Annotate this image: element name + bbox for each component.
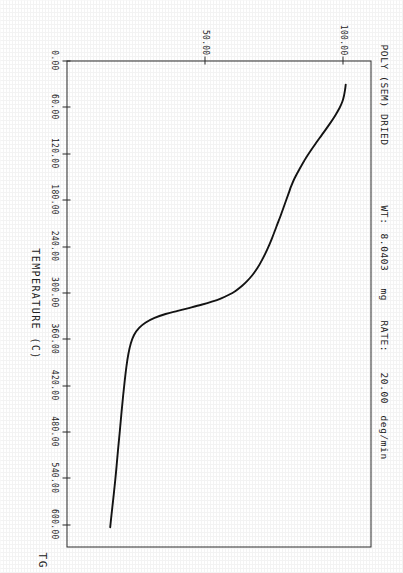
weight-value: 8.0403 <box>378 233 389 271</box>
x-tick <box>62 524 70 525</box>
rate-unit: deg/min <box>378 415 389 459</box>
x-tick <box>62 338 70 339</box>
plot-frame <box>66 60 371 547</box>
x-tick <box>62 60 70 61</box>
x-tick <box>62 246 70 247</box>
x-tick <box>62 385 70 386</box>
x-tick <box>62 199 70 200</box>
x-tick-label: 0.00 <box>49 50 58 70</box>
x-tick <box>62 477 70 478</box>
rate-value: 20.00 <box>378 372 389 404</box>
x-tick-label: 600.00 <box>49 508 58 539</box>
x-tick-label: 420.00 <box>49 369 58 400</box>
x-tick-label: 540.00 <box>49 462 58 493</box>
rate-label: RATE: <box>378 320 389 352</box>
x-tick <box>62 106 70 107</box>
y-tick-label: 100.00 <box>339 24 348 60</box>
tg-curve <box>67 61 370 546</box>
x-tick-label: 60.00 <box>49 94 58 120</box>
x-tick-label: 300.00 <box>49 277 58 308</box>
sample-name-label: POLY (SEM) DRIED <box>378 44 389 145</box>
x-tick-label: 120.00 <box>49 137 58 168</box>
x-tick-label: 480.00 <box>49 416 58 447</box>
chart-sheet: POLY (SEM) DRIED WT: 8.0403 mg RATE: 20.… <box>0 0 403 573</box>
x-tick <box>62 431 70 432</box>
x-axis-title: TEMPERATURE (C) <box>29 60 40 547</box>
x-tick <box>62 153 70 154</box>
weight-unit: mg <box>378 288 389 301</box>
x-tick-label: 240.00 <box>49 230 58 261</box>
tg-corner-label: TG <box>35 552 48 568</box>
rotated-chart-stage: POLY (SEM) DRIED WT: 8.0403 mg RATE: 20.… <box>0 0 403 573</box>
y-tick-label: 50.00 <box>200 29 209 60</box>
x-tick <box>62 292 70 293</box>
x-tick-label: 360.00 <box>49 323 58 354</box>
x-tick-label: 180.00 <box>49 184 58 215</box>
weight-label: WT: <box>378 205 389 224</box>
